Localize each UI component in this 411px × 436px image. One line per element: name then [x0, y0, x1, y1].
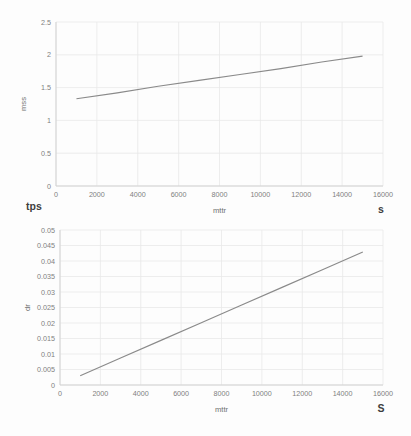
svg-text:S: S	[377, 402, 384, 414]
svg-text:0.02: 0.02	[41, 319, 55, 328]
svg-text:4000: 4000	[133, 389, 149, 398]
svg-text:s: s	[378, 203, 384, 215]
svg-text:0.05: 0.05	[41, 226, 55, 235]
plot-area-top: 00.511.522.50200040006000800010000120001…	[0, 0, 411, 216]
svg-text:4000: 4000	[130, 190, 146, 199]
svg-text:1: 1	[47, 116, 51, 125]
svg-text:0.01: 0.01	[41, 350, 55, 359]
svg-text:14000: 14000	[332, 190, 352, 199]
svg-text:8000: 8000	[212, 190, 228, 199]
svg-text:8000: 8000	[214, 389, 230, 398]
chart-dr-vs-mttr: 00.0050.010.0150.020.0250.030.0350.040.0…	[0, 216, 411, 436]
svg-text:mttr: mttr	[215, 405, 229, 414]
svg-text:0.015: 0.015	[37, 334, 55, 343]
svg-text:12000: 12000	[291, 190, 311, 199]
svg-text:0: 0	[47, 182, 51, 191]
line-chart-bottom-svg: 00.0050.010.0150.020.0250.030.0350.040.0…	[0, 216, 411, 436]
svg-text:0.04: 0.04	[41, 257, 55, 266]
plot-area-bottom: 00.0050.010.0150.020.0250.030.0350.040.0…	[0, 216, 411, 436]
svg-text:0.045: 0.045	[37, 241, 55, 250]
svg-text:tps: tps	[26, 200, 42, 212]
svg-text:2000: 2000	[92, 389, 108, 398]
svg-text:0.025: 0.025	[37, 303, 55, 312]
svg-text:2: 2	[47, 50, 51, 59]
svg-text:6000: 6000	[173, 389, 189, 398]
svg-text:16000: 16000	[373, 389, 393, 398]
svg-text:10000: 10000	[252, 389, 272, 398]
svg-text:0.03: 0.03	[41, 288, 55, 297]
svg-text:0: 0	[51, 381, 55, 390]
svg-text:10000: 10000	[250, 190, 270, 199]
svg-text:1.5: 1.5	[41, 83, 51, 92]
svg-text:0.035: 0.035	[37, 272, 55, 281]
chart-mss-vs-mttr: 00.511.522.50200040006000800010000120001…	[0, 0, 411, 216]
svg-text:0: 0	[54, 190, 58, 199]
svg-text:0: 0	[58, 389, 62, 398]
svg-text:12000: 12000	[292, 389, 312, 398]
line-chart-top-svg: 00.511.522.50200040006000800010000120001…	[0, 0, 411, 216]
svg-text:dr: dr	[23, 304, 32, 311]
figure-page: 00.511.522.50200040006000800010000120001…	[0, 0, 411, 436]
svg-text:mss: mss	[19, 97, 28, 111]
svg-text:mttr: mttr	[213, 206, 227, 215]
svg-text:0.005: 0.005	[37, 365, 55, 374]
svg-text:2000: 2000	[89, 190, 105, 199]
svg-text:14000: 14000	[333, 389, 353, 398]
svg-text:6000: 6000	[171, 190, 187, 199]
svg-text:16000: 16000	[373, 190, 393, 199]
svg-text:2.5: 2.5	[41, 18, 51, 27]
svg-text:0.5: 0.5	[41, 149, 51, 158]
